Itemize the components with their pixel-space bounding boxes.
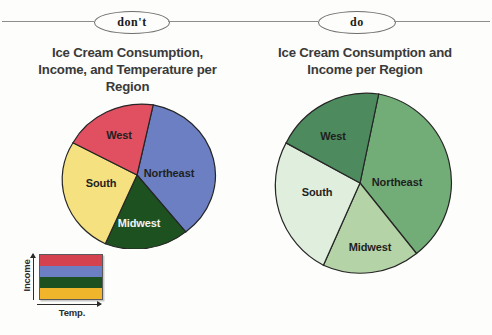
dont-pie-chart: Northeast Midwest South West <box>57 101 217 249</box>
legend-band-darkgreen <box>40 277 102 288</box>
do-label-northeast: Northeast <box>372 176 423 188</box>
legend-color-swatches <box>39 254 103 300</box>
legend-income-label: Income <box>21 252 32 300</box>
legend-temp-label: Temp. <box>42 307 102 318</box>
figure-canvas: don't do Ice Cream Consumption, Income, … <box>0 0 492 335</box>
legend-band-blue <box>40 266 102 277</box>
left-chart-title: Ice Cream Consumption, Income, and Tempe… <box>20 44 235 95</box>
do-label-west: West <box>320 130 346 142</box>
legend-temp-axis <box>37 304 101 305</box>
dont-label-west: West <box>106 129 132 141</box>
left-chart-title-line2: Income, and Temperature per Region <box>20 61 235 95</box>
do-pie-chart: Northeast Midwest South West <box>265 88 455 278</box>
dont-pie-svg: Northeast Midwest South West <box>57 101 217 249</box>
legend-income-axis <box>33 254 34 300</box>
dont-badge: don't <box>94 11 170 34</box>
do-label-midwest: Midwest <box>349 241 392 253</box>
legend-band-yellow <box>40 288 102 299</box>
legend: Income Temp. <box>12 252 116 324</box>
do-badge: do <box>318 11 396 34</box>
do-label-south: South <box>302 186 333 198</box>
dont-label-northeast: Northeast <box>144 167 195 179</box>
banner-rule-left <box>2 21 94 22</box>
banner-rule-right <box>394 21 490 22</box>
right-chart-title: Ice Cream Consumption and Income per Reg… <box>252 44 478 78</box>
right-chart-title-line2: Income per Region <box>252 61 478 78</box>
dont-label-midwest: Midwest <box>118 217 161 229</box>
right-chart-title-line1: Ice Cream Consumption and <box>252 44 478 61</box>
do-pie-svg: Northeast Midwest South West <box>265 88 455 278</box>
left-chart-title-line1: Ice Cream Consumption, <box>20 44 235 61</box>
dont-label-south: South <box>86 177 117 189</box>
legend-band-red <box>40 255 102 266</box>
banner-rule-middle <box>168 21 318 22</box>
